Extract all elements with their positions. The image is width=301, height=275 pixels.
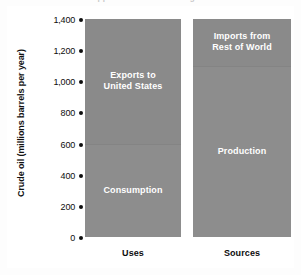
chart-page: appears cut off above figure Crude oil (… — [0, 0, 301, 275]
y-tick-label: 800 — [61, 107, 75, 119]
y-tick-400: 400 — [21, 170, 83, 182]
y-tick-0: 0 — [21, 232, 83, 244]
tick-dot-icon — [79, 205, 83, 209]
bar-uses[interactable]: Exports to United States Consumption — [85, 19, 181, 237]
y-tick-label: 200 — [61, 201, 75, 213]
segment-consumption[interactable]: Consumption — [85, 144, 181, 237]
y-tick-1000: 1,000 — [21, 76, 83, 88]
y-tick-800: 800 — [21, 107, 83, 119]
tick-dot-icon — [79, 80, 83, 84]
y-tick-label: 1,000 — [53, 76, 75, 88]
y-tick-200: 200 — [21, 201, 83, 213]
tick-dot-icon — [79, 174, 83, 178]
y-tick-label: 400 — [61, 170, 75, 182]
cropped-caption-text: appears cut off above figure — [0, 0, 301, 3]
y-tick-label: 1,400 — [53, 14, 75, 26]
y-tick-label: 600 — [61, 139, 75, 151]
y-tick-1200: 1,200 — [21, 45, 83, 57]
tick-dot-icon — [79, 143, 83, 147]
y-tick-1400: 1,400 — [21, 14, 83, 26]
segment-production[interactable]: Production — [193, 66, 291, 237]
category-label-uses: Uses — [85, 248, 181, 258]
plot-area: Crude oil (millions barrels per year) 1,… — [7, 6, 294, 268]
y-tick-label: 0 — [70, 232, 75, 244]
y-tick-label: 1,200 — [53, 45, 75, 57]
tick-dot-icon — [79, 18, 83, 22]
segment-label: Imports from Rest of World — [208, 31, 276, 53]
bar-sources[interactable]: Imports from Rest of World Production — [193, 19, 291, 237]
category-label-sources: Sources — [193, 248, 291, 258]
segment-exports-to-united-states[interactable]: Exports to United States — [85, 19, 181, 144]
segment-label: Exports to United States — [100, 70, 167, 92]
segment-label: Consumption — [99, 185, 166, 196]
tick-dot-icon — [79, 236, 83, 240]
segment-imports-from-rest-of-world[interactable]: Imports from Rest of World — [193, 19, 291, 66]
tick-dot-icon — [79, 111, 83, 115]
tick-dot-icon — [79, 49, 83, 53]
y-tick-600: 600 — [21, 139, 83, 151]
segment-label: Production — [214, 146, 271, 157]
